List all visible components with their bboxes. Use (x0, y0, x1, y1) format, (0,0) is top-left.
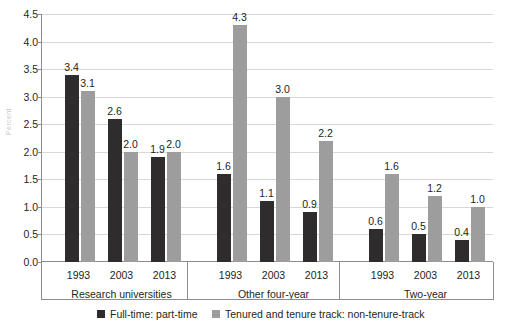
bar (233, 25, 247, 262)
y-axis-tick-label: 3.5 (12, 64, 38, 75)
x-axis-group-label: Research universities (42, 289, 202, 300)
bar (260, 201, 274, 262)
x-axis-year-label: 2003 (102, 270, 142, 281)
bar (124, 152, 138, 262)
x-axis-year-label: 2013 (449, 270, 489, 281)
y-axis-tick-label: 0.5 (12, 229, 38, 240)
y-axis-tick-label: 2.5 (12, 119, 38, 130)
y-axis-tick-label: 2.0 (12, 147, 38, 158)
plot-area: 3.43.12.62.01.92.01.64.31.13.00.92.20.61… (41, 14, 493, 262)
x-axis-year-label: 1993 (363, 270, 403, 281)
legend-label: Tenured and tenure track: non-tenure-tra… (225, 308, 425, 320)
y-axis-tick (37, 207, 42, 208)
bar-value-label: 2.0 (161, 139, 187, 150)
y-axis-tick-label: 3.0 (12, 92, 38, 103)
x-axis-year-label: 1993 (59, 270, 99, 281)
bar-value-label: 1.2 (422, 183, 448, 194)
x-axis-year-label: 2003 (254, 270, 294, 281)
bar (471, 207, 485, 262)
bar-value-label: 3.4 (59, 62, 85, 73)
group-separator (41, 262, 42, 300)
legend-item: Tenured and tenure track: non-tenure-tra… (212, 308, 425, 320)
chart-legend: Full-time: part-timeTenured and tenure t… (0, 305, 514, 323)
bar-value-label: 3.0 (270, 84, 296, 95)
bar-value-label: 2.2 (313, 128, 339, 139)
x-axis-year-label: 2013 (145, 270, 185, 281)
gridline (42, 97, 493, 98)
label-band-border (41, 299, 493, 300)
bar (303, 212, 317, 262)
bar-value-label: 1.6 (379, 161, 405, 172)
bar-chart: Percent 4.54.03.53.02.52.01.51.00.50.0 3… (0, 0, 514, 328)
x-axis-group-label: Two-year (346, 289, 506, 300)
bar (412, 234, 426, 262)
y-axis-tick (37, 234, 42, 235)
bar (81, 91, 95, 262)
y-axis-tick-labels: 4.54.03.53.02.52.01.51.00.50.0 (0, 0, 38, 328)
x-axis-group-label: Other four-year (194, 289, 354, 300)
y-axis-tick (37, 14, 42, 15)
group-separator (187, 262, 188, 300)
y-axis-tick-label: 1.5 (12, 174, 38, 185)
x-axis-year-label: 2003 (406, 270, 446, 281)
y-axis-tick (37, 97, 42, 98)
bar-value-label: 2.0 (118, 139, 144, 150)
bar (369, 229, 383, 262)
y-axis-tick (37, 179, 42, 180)
group-separator (493, 262, 494, 300)
legend-label: Full-time: part-time (110, 308, 198, 320)
y-axis-tick-label: 1.0 (12, 202, 38, 213)
legend-swatch-icon (97, 310, 105, 318)
y-axis-tick (37, 152, 42, 153)
bar (65, 75, 79, 262)
bar (167, 152, 181, 262)
x-axis-year-label: 2013 (297, 270, 337, 281)
legend-swatch-icon (212, 310, 220, 318)
bar-value-label: 3.1 (75, 78, 101, 89)
x-axis-year-label: 1993 (211, 270, 251, 281)
y-axis-tick-label: 4.0 (12, 37, 38, 48)
gridline (42, 42, 493, 43)
y-axis-tick (37, 69, 42, 70)
gridline (42, 69, 493, 70)
bar (151, 157, 165, 262)
y-axis-tick-label: 4.5 (12, 9, 38, 20)
y-axis-tick-label: 0.0 (12, 257, 38, 268)
y-axis-tick (37, 42, 42, 43)
bar (428, 196, 442, 262)
y-axis-tick (37, 124, 42, 125)
bar (217, 174, 231, 262)
legend-item: Full-time: part-time (97, 308, 198, 320)
bar (455, 240, 469, 262)
bar-value-label: 1.0 (465, 194, 491, 205)
bar (319, 141, 333, 262)
bar (276, 97, 290, 262)
bar (385, 174, 399, 262)
bar-value-label: 2.6 (102, 106, 128, 117)
gridline (42, 14, 493, 15)
group-separator (339, 262, 340, 300)
bar-value-label: 4.3 (227, 12, 253, 23)
